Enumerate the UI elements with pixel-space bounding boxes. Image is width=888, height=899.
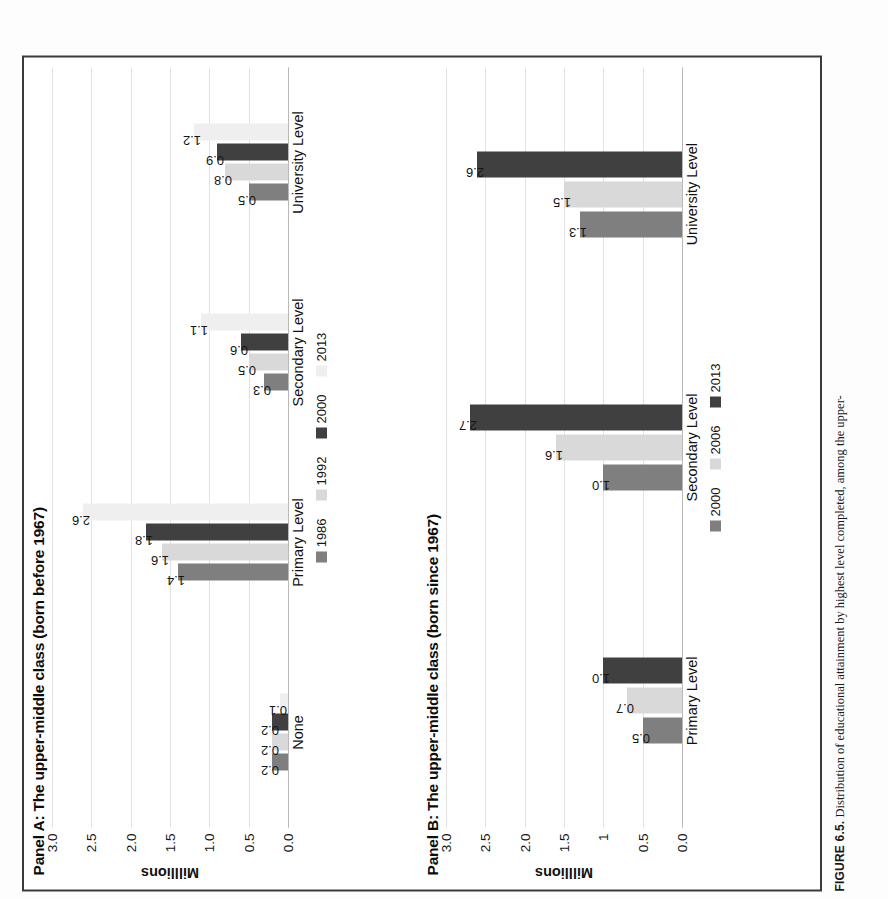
panel-a-bar: 1.1 <box>201 314 288 331</box>
panel-a-category-label: University Level <box>290 67 306 257</box>
panel-a-ytick: 3.0 <box>45 833 60 852</box>
panel-b-bar-group: 0.50.71.0 <box>446 574 682 827</box>
panel-a-bar-value-label: 0.1 <box>269 702 287 717</box>
panel-a-category-label: Primary Level <box>290 447 306 637</box>
panel-a-legend-item[interactable]: 2013 <box>314 332 329 376</box>
panel-a-bar-value-label: 1.2 <box>183 132 201 147</box>
panel-a-bar-value-label: 1.6 <box>151 552 169 567</box>
panel-b-ytick: 3.0 <box>439 833 454 852</box>
panel-a-legend: 1986199220002013 <box>314 67 329 827</box>
panel-b-bar: 2.7 <box>470 404 682 430</box>
panel-a-bar-value-label: 0.3 <box>253 382 271 397</box>
panel-a-category-label: Secondary Level <box>290 257 306 447</box>
rotated-page-wrapper: Panel A: The upper-middle class (born be… <box>0 0 888 899</box>
panel-b-legend-item[interactable]: 2013 <box>708 363 723 407</box>
panel-b-legend-item[interactable]: 2006 <box>708 425 723 469</box>
panel-b-bar-value-label: 1.5 <box>553 194 571 209</box>
panel-a-bar-value-label: 0.2 <box>261 742 279 757</box>
panel-a-ytick: 0.0 <box>281 833 296 852</box>
panel-a-bar-value-label: 0.8 <box>214 172 232 187</box>
panel-a-legend-label: 1986 <box>314 518 329 547</box>
panel-b-bar-cluster: 1.01.62.7 <box>446 404 682 490</box>
panel-b-legend-swatch-icon <box>710 520 721 531</box>
panel-b-y-axis-label-text: Milllions <box>535 864 593 880</box>
panel-a-category-labels: NonePrimary LevelSecondary LevelUniversi… <box>290 67 306 827</box>
panel-a-ytick: 2.5 <box>84 833 99 852</box>
panel-a-bar-value-label: 0.9 <box>206 152 224 167</box>
panel-a: Panel A: The upper-middle class (born be… <box>30 53 324 889</box>
panel-a-legend-swatch-icon <box>316 489 327 500</box>
panel-a-bar: 1.2 <box>194 124 288 141</box>
panel-b-bar-cluster: 1.31.52.6 <box>446 151 682 237</box>
panel-a-bar-group: 0.20.20.20.1 <box>52 637 288 827</box>
panel-a-plot-area: 0.20.20.20.11.41.61.82.60.30.50.61.10.50… <box>52 67 289 827</box>
panel-a-bar: 0.5 <box>249 184 288 201</box>
panel-a-bar-value-label: 1.4 <box>167 572 185 587</box>
panel-b-bar-group: 1.31.52.6 <box>446 67 682 320</box>
panel-a-ytick: 0.5 <box>241 833 256 852</box>
panel-b-bar: 1.5 <box>564 181 682 207</box>
panel-b-bar-value-label: 1.0 <box>592 477 610 492</box>
panel-a-bar: 0.6 <box>241 334 288 351</box>
panel-b-category-label: University Level <box>684 67 700 320</box>
panel-b-legend-label: 2000 <box>708 487 723 516</box>
panel-a-bar-value-label: 0.6 <box>230 342 248 357</box>
panel-b-ytick: 0.0 <box>675 833 690 852</box>
panel-b-ytick: 0.5 <box>635 833 650 852</box>
panel-a-y-tick-labels: 3.02.52.01.51.00.50.0 <box>52 829 288 863</box>
panel-a-bar: 0.3 <box>264 374 288 391</box>
panel-a-ytick: 1.0 <box>202 833 217 852</box>
panel-a-y-axis-label: Milllions <box>52 861 288 883</box>
panel-a-bar-cluster: 0.20.20.20.1 <box>52 694 288 771</box>
panel-b: Panel B: The upper-middle class (born si… <box>424 53 718 889</box>
panel-b-legend-item[interactable]: 2000 <box>708 487 723 531</box>
panel-b-plot-row: Milllions 3.02.52.01.510.50.0 0.50.71.01… <box>446 53 718 889</box>
panel-a-legend-label: 2013 <box>314 332 329 361</box>
panel-b-bar-value-label: 1.3 <box>569 224 587 239</box>
panel-a-bar-group: 0.30.50.61.1 <box>52 257 288 447</box>
panel-a-legend-label: 2000 <box>314 394 329 423</box>
panel-b-bar-groups: 0.50.71.01.01.62.71.31.52.6 <box>446 67 682 827</box>
panel-b-bar: 1.6 <box>556 434 682 460</box>
panel-a-plot-row: Milllions 3.02.52.01.51.00.50.0 0.20.20.… <box>52 53 324 889</box>
panel-a-legend-swatch-icon <box>316 427 327 438</box>
panel-b-y-axis-label: Milllions <box>446 861 682 883</box>
panel-a-bar-groups: 0.20.20.20.11.41.61.82.60.30.50.61.10.50… <box>52 67 288 827</box>
scanned-figure-page: Panel A: The upper-middle class (born be… <box>0 0 888 899</box>
panel-a-legend-item[interactable]: 1986 <box>314 518 329 562</box>
panel-a-bar-cluster: 0.30.50.61.1 <box>52 314 288 391</box>
panel-a-legend-swatch-icon <box>316 365 327 376</box>
panel-a-bar: 1.4 <box>178 564 288 581</box>
panel-b-bar: 2.6 <box>477 151 682 177</box>
panel-b-y-tick-labels: 3.02.52.01.510.50.0 <box>446 829 682 863</box>
panel-a-bar: 0.1 <box>280 694 288 711</box>
panel-b-ytick: 2.0 <box>517 833 532 852</box>
panel-b-ytick: 1 <box>596 833 611 841</box>
panel-a-bar-value-label: 0.2 <box>261 762 279 777</box>
panel-b-category-labels: Primary LevelSecondary LevelUniversity L… <box>684 67 700 827</box>
panel-b-bar-group: 1.01.62.7 <box>446 320 682 573</box>
panel-b-legend-label: 2006 <box>708 425 723 454</box>
figure-caption-text: Distribution of educational attainment b… <box>833 395 847 817</box>
panel-a-legend-item[interactable]: 2000 <box>314 394 329 438</box>
panel-a-bar: 0.5 <box>249 354 288 371</box>
panel-a-legend-item[interactable]: 1992 <box>314 456 329 500</box>
panel-a-y-axis-label-text: Milllions <box>141 864 199 880</box>
panel-a-bar-value-label: 0.5 <box>238 362 256 377</box>
panel-b-bar-value-label: 2.7 <box>459 417 477 432</box>
panel-a-bar-cluster: 1.41.61.82.6 <box>52 504 288 581</box>
panel-b-category-label: Primary Level <box>684 574 700 827</box>
panel-a-title: Panel A: The upper-middle class (born be… <box>30 53 48 889</box>
panel-b-ytick: 1.5 <box>557 833 572 852</box>
panel-b-legend: 200020062013 <box>708 67 723 827</box>
panel-a-bar: 1.8 <box>146 524 288 541</box>
panel-a-ytick: 1.5 <box>163 833 178 852</box>
panel-a-bar: 0.8 <box>225 164 288 181</box>
panel-b-ytick: 2.5 <box>478 833 493 852</box>
panel-a-legend-swatch-icon <box>316 551 327 562</box>
panel-b-bar: 1.3 <box>580 211 682 237</box>
panel-b-legend-swatch-icon <box>710 458 721 469</box>
panel-b-plot-area: 0.50.71.01.01.62.71.31.52.6 <box>446 67 683 827</box>
panel-a-ytick: 2.0 <box>123 833 138 852</box>
panel-a-legend-label: 1992 <box>314 456 329 485</box>
